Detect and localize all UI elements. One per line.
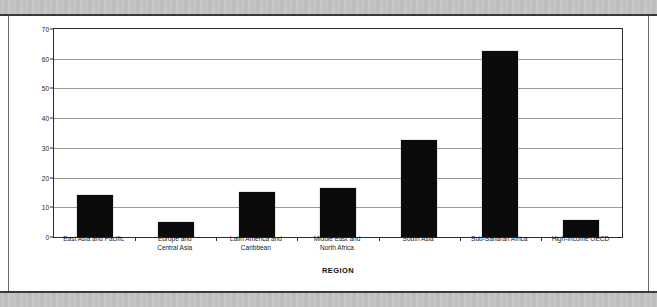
gridline	[54, 148, 622, 149]
scan-band-top	[0, 0, 657, 16]
bar	[482, 51, 518, 237]
gridline	[54, 118, 622, 119]
y-axis-tick-mark	[50, 147, 54, 148]
bar	[239, 192, 275, 237]
x-axis-category-label: East Asia and Pacific	[53, 234, 134, 243]
y-axis-tick-label: 30	[42, 144, 49, 151]
bar-chart-figure: Percent 010203040506070 East Asia and Pa…	[12, 18, 644, 288]
gridline	[54, 88, 622, 89]
y-axis-tick-label: 20	[42, 174, 49, 181]
page-border-left	[8, 16, 9, 291]
y-axis-tick-label: 70	[42, 26, 49, 33]
bar	[320, 188, 356, 237]
y-axis-tick-mark	[50, 177, 54, 178]
x-axis-category-label: Latin America and Caribbean	[215, 234, 296, 252]
y-axis-tick-mark	[50, 207, 54, 208]
bar	[77, 195, 113, 237]
y-axis-tick-mark	[50, 29, 54, 30]
y-axis-tick-label: 50	[42, 85, 49, 92]
plot-area: 010203040506070	[53, 28, 623, 238]
x-axis-title: REGION	[53, 266, 623, 275]
y-axis-tick-mark	[50, 58, 54, 59]
x-axis-category-label: South Asia	[378, 234, 459, 243]
y-axis-tick-label: 10	[42, 204, 49, 211]
x-axis-category-label: Sub-Saharan Africa	[459, 234, 540, 243]
y-axis-tick-label: 0	[45, 234, 49, 241]
y-axis-tick-mark	[50, 88, 54, 89]
x-axis-category-label: High-Income OECD	[540, 234, 621, 243]
x-axis-category-label: Middle East and North Africa	[296, 234, 377, 252]
scan-band-bottom	[0, 291, 657, 307]
page-border-right	[648, 16, 649, 291]
y-axis-tick-label: 40	[42, 115, 49, 122]
gridline	[54, 59, 622, 60]
y-axis-tick-label: 60	[42, 55, 49, 62]
gridline	[54, 178, 622, 179]
bar	[401, 140, 437, 237]
y-axis-tick-mark	[50, 118, 54, 119]
x-axis-category-label: Europe and Central Asia	[134, 234, 215, 252]
